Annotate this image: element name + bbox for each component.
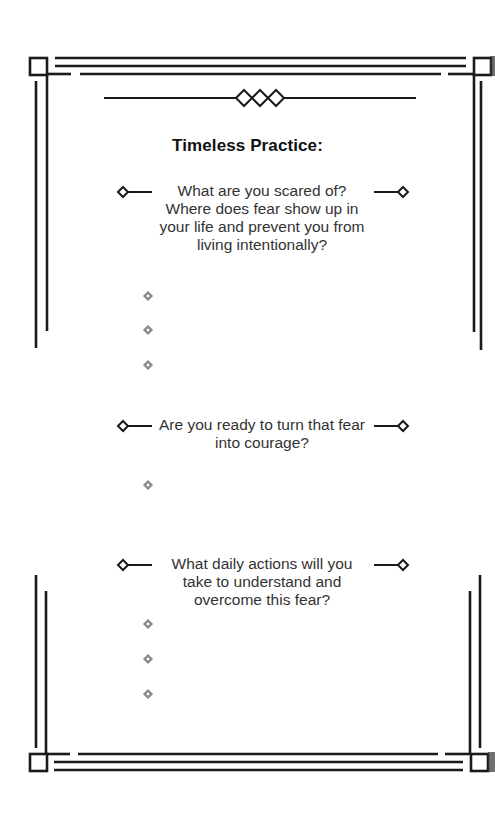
triple-diamond-divider-icon — [104, 90, 416, 106]
corner-square-top-right — [474, 58, 491, 75]
nested-diamond-bullet-icon — [143, 480, 153, 490]
corner-square-top-left — [30, 58, 47, 75]
question-text: What daily actions will you take to unde… — [155, 555, 369, 609]
nested-diamond-bullet-icon — [143, 325, 153, 335]
nested-diamond-bullet-icon — [143, 689, 153, 699]
diamond-line-icon — [116, 558, 156, 572]
diamond-line-icon — [372, 419, 412, 433]
question-text: What are you scared of? Where does fear … — [155, 182, 369, 254]
diamond-line-icon — [116, 419, 156, 433]
corner-square-bottom-left — [30, 754, 47, 771]
page-border-frame — [0, 0, 495, 821]
nested-diamond-bullet-icon — [143, 654, 153, 664]
corner-square-bottom-right — [471, 754, 488, 771]
diamond-line-icon — [372, 185, 412, 199]
question-text: Are you ready to turn that fear into cou… — [155, 416, 369, 452]
nested-diamond-bullet-icon — [143, 619, 153, 629]
page-title: Timeless Practice: — [0, 136, 495, 156]
nested-diamond-bullet-icon — [143, 360, 153, 370]
diamond-line-icon — [372, 558, 412, 572]
diamond-line-icon — [116, 185, 156, 199]
nested-diamond-bullet-icon — [143, 291, 153, 301]
